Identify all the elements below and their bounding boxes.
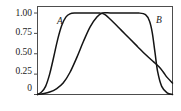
ytick-label-3: 0.50	[2, 48, 32, 58]
chart-figure: 1.00 0.75 0.50 0.25 0 A B	[0, 0, 181, 111]
curve-label-a: A	[57, 17, 63, 27]
y-axis-ticks	[34, 13, 38, 94]
ytick-label-4: 0.25	[2, 67, 32, 77]
curve-label-b: B	[156, 16, 162, 26]
ytick-label-2: 0.75	[2, 28, 32, 38]
ytick-label-5: 0	[2, 84, 32, 94]
ytick-label-1: 1.00	[2, 9, 32, 19]
